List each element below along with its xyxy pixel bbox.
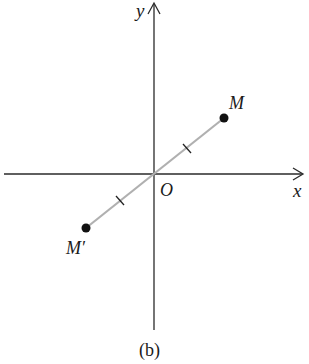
point-m-prime-label: M′ <box>65 238 86 258</box>
y-axis-label: y <box>134 0 145 21</box>
x-axis-label: x <box>292 180 302 201</box>
point-m-prime <box>82 224 91 233</box>
reflection-diagram: y x O M M′ (b) <box>0 0 309 364</box>
segment-m-mprime <box>86 118 224 228</box>
origin-label: O <box>160 180 173 200</box>
figure-caption: (b) <box>139 340 160 361</box>
point-m <box>220 114 229 123</box>
point-m-label: M <box>228 93 245 113</box>
